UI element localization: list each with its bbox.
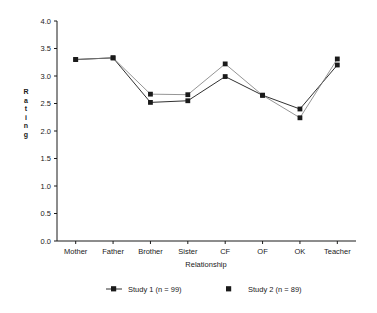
legend-label-series-2: Study 2 (n = 89): [248, 285, 302, 294]
data-point-marker: [335, 63, 340, 68]
legend-swatch-marker-series-2: [226, 286, 231, 291]
data-point-marker: [111, 55, 116, 60]
data-point-marker: [223, 74, 228, 79]
x-tick-label: Sister: [178, 247, 198, 256]
data-point-marker: [148, 92, 153, 97]
legend-label-series-1: Study 1 (n = 99): [128, 285, 182, 294]
x-tick-label: Father: [102, 247, 124, 256]
chart-figure: R a t i n g 0.00.51.01.52.02.53.03.54.0 …: [0, 0, 377, 313]
x-axis-title: Relationship: [185, 260, 226, 269]
y-tick-label: 0.0: [41, 237, 51, 246]
legend-swatch-marker-series-1: [111, 286, 116, 291]
x-tick-label: OK: [295, 247, 306, 256]
data-point-marker: [185, 92, 190, 97]
y-tick-label: 1.5: [41, 154, 51, 163]
y-axis-ticks: 0.00.51.01.52.02.53.03.54.0: [41, 17, 57, 246]
y-tick-label: 3.0: [41, 72, 51, 81]
x-tick-label: Brother: [138, 247, 163, 256]
y-tick-label: 3.5: [41, 44, 51, 53]
y-tick-label: 0.5: [41, 209, 51, 218]
data-series-layer: [73, 55, 339, 120]
data-point-marker: [335, 57, 340, 62]
x-tick-label: Mother: [64, 247, 88, 256]
data-series: [73, 55, 339, 111]
data-point-marker: [185, 98, 190, 103]
data-point-marker: [73, 57, 78, 62]
y-tick-label: 2.0: [41, 127, 51, 136]
data-point-marker: [260, 93, 265, 98]
data-point-marker: [298, 115, 303, 120]
line-chart-plot: 0.00.51.01.52.02.53.03.54.0 MotherFather…: [0, 0, 377, 313]
chart-legend: Study 1 (n = 99) Study 2 (n = 89): [106, 285, 302, 294]
y-tick-label: 1.0: [41, 182, 51, 191]
y-tick-label: 2.5: [41, 99, 51, 108]
data-point-marker: [223, 62, 228, 67]
data-point-marker: [148, 100, 153, 105]
x-axis-ticks: MotherFatherBrotherSisterCFOFOKTeacher: [64, 241, 351, 256]
x-tick-label: OF: [257, 247, 268, 256]
data-point-marker: [298, 107, 303, 112]
y-tick-label: 4.0: [41, 17, 51, 26]
x-tick-label: Teacher: [324, 247, 351, 256]
series-line: [76, 58, 338, 109]
x-tick-label: CF: [220, 247, 230, 256]
